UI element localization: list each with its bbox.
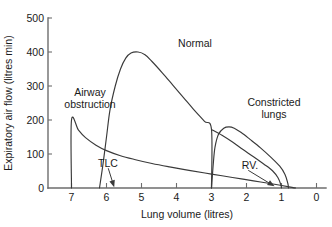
x-axis: 7 6 5 4 3 2 1 0 Lung volume (litres) xyxy=(48,183,326,220)
flow-volume-chart: 500 400 300 200 100 0 Expiratory air flo… xyxy=(0,0,332,227)
label-airway-obstruction-line2: obstruction xyxy=(64,98,116,110)
label-normal: Normal xyxy=(178,37,212,49)
y-tick-label-100: 100 xyxy=(26,148,44,160)
x-axis-title: Lung volume (litres) xyxy=(141,208,233,220)
label-airway-obstruction-line1: Airway xyxy=(74,86,106,98)
y-axis-title: Expiratory air flow (litres min) xyxy=(2,35,14,170)
x-tick-label-5: 5 xyxy=(139,191,145,203)
x-tick-label-4: 4 xyxy=(174,191,180,203)
x-tick-label-6: 6 xyxy=(104,191,110,203)
y-tick-label-500: 500 xyxy=(26,12,44,24)
x-tick-label-7: 7 xyxy=(69,191,75,203)
x-tick-label-2: 2 xyxy=(244,191,250,203)
rv-label: RV. xyxy=(242,159,258,171)
chart-canvas: 500 400 300 200 100 0 Expiratory air flo… xyxy=(0,0,332,227)
label-constricted-lungs-line2: lungs xyxy=(261,108,286,120)
y-axis: 500 400 300 200 100 0 Expiratory air flo… xyxy=(2,12,52,194)
y-tick-label-300: 300 xyxy=(26,80,44,92)
tlc-arrow-line xyxy=(108,168,112,182)
y-tick-label-0: 0 xyxy=(38,182,44,194)
tlc-label: TLC xyxy=(98,157,118,169)
rv-arrow-head xyxy=(267,180,274,186)
y-tick-label-200: 200 xyxy=(26,114,44,126)
annotations-group: TLC RV. xyxy=(98,157,274,187)
x-tick-label-0: 0 xyxy=(314,191,320,203)
label-constricted-lungs-line1: Constricted xyxy=(247,96,300,108)
x-tick-label-1: 1 xyxy=(279,191,285,203)
x-tick-label-3: 3 xyxy=(209,191,215,203)
curve-labels-group: Normal Airway obstruction Constricted lu… xyxy=(64,37,300,120)
y-tick-label-400: 400 xyxy=(26,46,44,58)
tlc-arrow-head xyxy=(109,180,114,188)
